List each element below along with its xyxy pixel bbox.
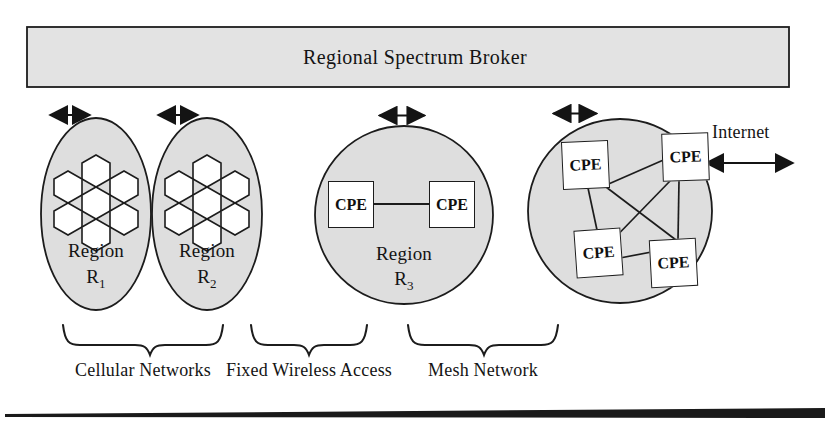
brace-mesh (408, 325, 558, 355)
cpe-box-mesh-top-right[interactable]: CPE (661, 132, 710, 182)
mesh-link-tr-br (678, 181, 679, 240)
group-braces (63, 325, 558, 355)
hex-cell (221, 203, 249, 235)
region-r1-name: Region (46, 240, 146, 262)
hex-cell (54, 203, 82, 235)
group-label-mesh-network: Mesh Network (408, 360, 558, 381)
cpe-box-mesh-bottom-right[interactable]: CPE (649, 238, 698, 288)
region-r2-id-index: 2 (210, 276, 217, 291)
region-r3-id-index: 3 (407, 278, 414, 293)
region-r1-id: R1 (46, 266, 146, 292)
hex-cell (193, 155, 221, 187)
hex-cell (82, 187, 110, 219)
hex-cell (54, 171, 82, 203)
region-r3-name: Region (354, 243, 454, 265)
brace-fixed-wireless (251, 325, 367, 355)
broker-title: Regional Spectrum Broker (0, 46, 830, 69)
cpe-box-fixed-wireless-left[interactable]: CPE (328, 181, 374, 228)
broker-connector-arrows (50, 114, 597, 116)
group-label-cellular-networks: Cellular Networks (48, 360, 238, 381)
internet-label: Internet (712, 122, 770, 143)
cpe-box-mesh-top-left[interactable]: CPE (561, 140, 610, 190)
region-r2-id: R2 (157, 266, 257, 292)
hex-cell (165, 203, 193, 235)
hex-cell (193, 187, 221, 219)
region-r1-id-index: 1 (99, 276, 106, 291)
hex-cell (221, 171, 249, 203)
bottom-rule (5, 408, 825, 418)
region-r1-id-letter: R (86, 266, 99, 287)
region-r2-name: Region (157, 240, 257, 262)
region-r2-id-letter: R (197, 266, 210, 287)
hex-cell (110, 203, 138, 235)
hex-cell (165, 171, 193, 203)
group-label-fixed-wireless-access: Fixed Wireless Access (218, 360, 400, 381)
region-r3-id: R3 (354, 268, 454, 294)
spectrum-broker-diagram: Regional Spectrum Broker Region R1 Regio… (0, 0, 830, 423)
cpe-box-mesh-bottom-left[interactable]: CPE (573, 227, 623, 278)
region-r3-id-letter: R (394, 268, 407, 289)
cpe-box-fixed-wireless-right[interactable]: CPE (429, 181, 475, 228)
hex-cell (110, 171, 138, 203)
hex-cell (82, 155, 110, 187)
brace-cellular (63, 325, 223, 355)
